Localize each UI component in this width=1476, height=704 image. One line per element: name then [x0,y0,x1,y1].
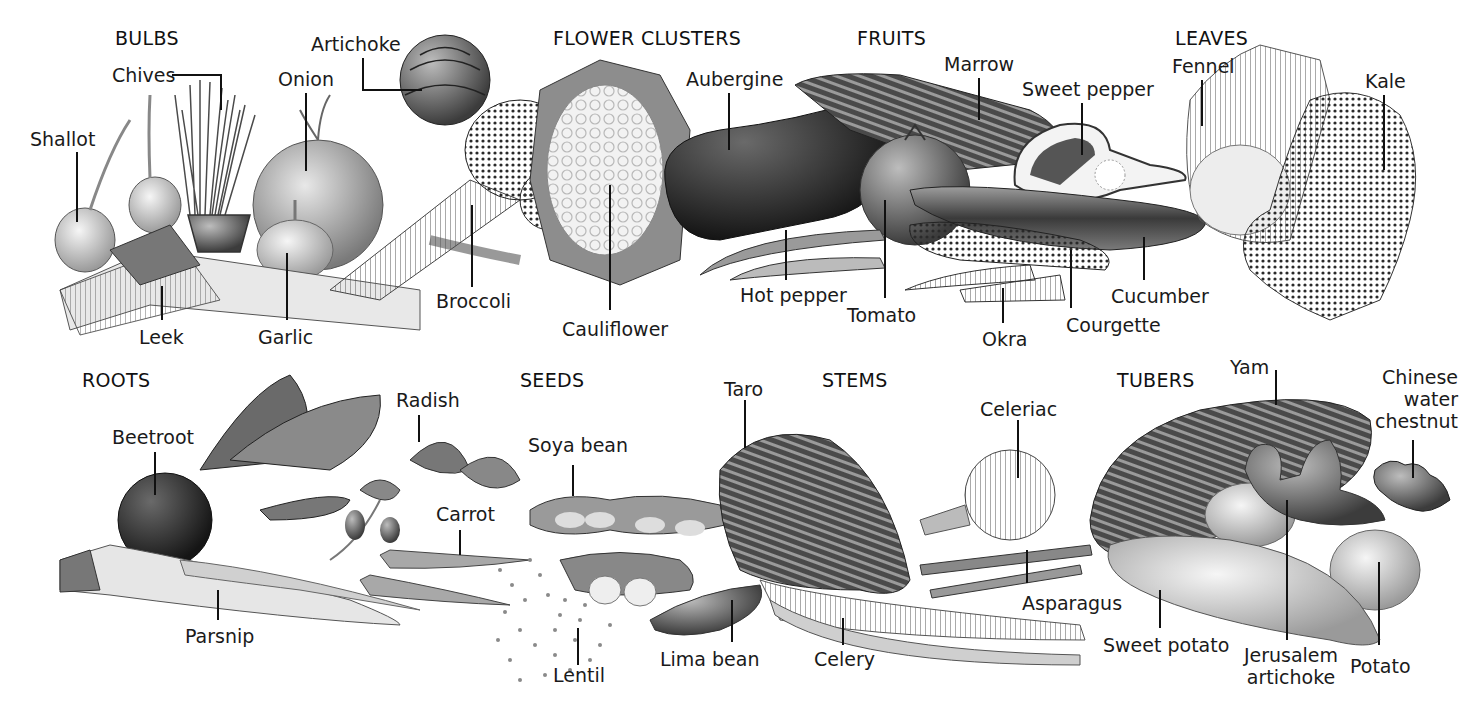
label-chives: Chives [112,64,175,86]
chinese-water-chestnut-drawing [1374,461,1450,511]
label-fennel: Fennel [1172,55,1235,77]
label-cucumber: Cucumber [1111,285,1209,307]
category-stems: STEMS [822,369,888,391]
label-garlic: Garlic [258,326,313,348]
category-roots: ROOTS [82,369,150,391]
category-tubers: TUBERS [1117,369,1195,391]
beetroot-drawing [118,375,380,567]
category-fruits: FRUITS [857,27,926,49]
label-soya-bean: Soya bean [528,434,628,456]
celeriac-drawing [920,450,1055,540]
label-courgette: Courgette [1066,314,1161,336]
label-celeriac: Celeriac [980,398,1057,420]
label-shallot: Shallot [30,128,95,150]
label-potato: Potato [1350,655,1411,677]
label-chinese-water-chestnut-line1: Chinese [1370,366,1458,388]
label-onion: Onion [278,68,334,90]
label-jerusalem-artichoke: Jerusalem artichoke [1243,644,1339,688]
sweet-pepper-drawing [1015,124,1186,202]
asparagus-drawing [920,545,1092,598]
label-okra: Okra [982,328,1027,350]
vegetable-illustration [0,0,1476,704]
okra-drawing [905,265,1065,302]
label-lima-bean: Lima bean [660,648,760,670]
label-chinese-water-chestnut-line2: water [1370,388,1458,410]
category-seeds: SEEDS [520,369,584,391]
label-jerusalem-artichoke-line1: Jerusalem [1243,644,1339,666]
label-taro: Taro [724,378,763,400]
label-sweet-pepper: Sweet pepper [1022,78,1154,100]
taro-drawing [719,434,910,593]
category-bulbs: BULBS [115,27,179,49]
label-artichoke: Artichoke [311,33,401,55]
label-beetroot: Beetroot [112,426,194,448]
label-parsnip: Parsnip [185,625,254,647]
label-kale: Kale [1365,70,1406,92]
label-cauliflower: Cauliflower [562,318,668,340]
chives-drawing [175,80,255,252]
label-lentil: Lentil [553,664,605,686]
label-leek: Leek [139,326,184,348]
label-sweet-potato: Sweet potato [1103,634,1229,656]
label-asparagus: Asparagus [1022,592,1122,614]
label-hot-pepper: Hot pepper [740,284,847,306]
artichoke-drawing [400,35,490,125]
label-tomato: Tomato [847,304,916,326]
label-carrot: Carrot [436,503,495,525]
radish-drawing [330,442,520,560]
soya-bean-drawing [530,496,725,536]
category-leaves: LEAVES [1175,27,1248,49]
category-flower-clusters: FLOWER CLUSTERS [553,27,741,49]
label-radish: Radish [396,389,460,411]
label-jerusalem-artichoke-line2: artichoke [1243,666,1339,688]
label-marrow: Marrow [944,53,1014,75]
label-broccoli: Broccoli [436,290,511,312]
label-aubergine: Aubergine [686,68,783,90]
label-chinese-water-chestnut: Chinese water chestnut [1370,366,1458,432]
carrot-drawing [360,550,530,605]
label-chinese-water-chestnut-line3: chestnut [1370,410,1458,432]
label-yam: Yam [1230,356,1269,378]
label-celery: Celery [814,648,875,670]
